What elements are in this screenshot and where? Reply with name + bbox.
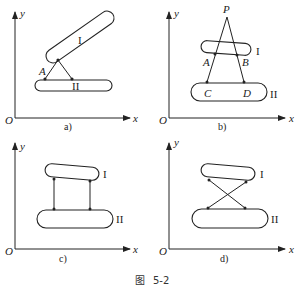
- body-II: [191, 83, 267, 101]
- body-II-label: II: [271, 213, 279, 225]
- point-P: P: [222, 3, 230, 15]
- panel-c: y x O I II c): [5, 140, 138, 265]
- x-axis-label: x: [288, 243, 294, 255]
- body-I: [201, 163, 256, 181]
- body-I: [201, 40, 252, 55]
- x-axis-label: x: [132, 243, 138, 255]
- figure-caption-prefix: 图: [135, 275, 145, 286]
- body-I-label: I: [260, 168, 264, 180]
- panel-label: a): [64, 121, 72, 133]
- origin-label: O: [5, 114, 13, 126]
- figure-5-2: y x O I II A a) y x O I II: [0, 0, 298, 288]
- point-A: A: [38, 65, 46, 77]
- panel-label: c): [59, 253, 67, 265]
- body-II-label: II: [116, 213, 124, 225]
- origin-label: O: [5, 245, 13, 257]
- point-C: C: [204, 87, 212, 99]
- origin-label: O: [159, 245, 167, 257]
- panel-label: b): [218, 121, 226, 133]
- panel-b: y x O I II P A B C D b): [159, 3, 294, 133]
- body-I-label: I: [256, 45, 260, 57]
- body-II-label: II: [72, 80, 80, 92]
- figure-caption-number: 5-2: [153, 275, 169, 286]
- x-axis-label: x: [288, 112, 294, 124]
- body-II: [192, 209, 268, 228]
- origin-label: O: [159, 114, 167, 126]
- panel-a: y x O I II A a): [5, 7, 138, 133]
- body-II: [37, 210, 113, 228]
- panel-label: d): [220, 253, 228, 265]
- y-axis-label: y: [173, 136, 179, 148]
- y-axis-label: y: [173, 7, 179, 19]
- body-II-label: II: [270, 88, 278, 100]
- point-A: A: [202, 56, 210, 68]
- body-I-label: I: [78, 34, 82, 46]
- panel-d: y x O I II d): [159, 136, 294, 265]
- y-axis-label: y: [19, 140, 25, 152]
- point-B: B: [242, 56, 249, 68]
- body-I-label: I: [103, 168, 107, 180]
- point-D: D: [242, 87, 251, 99]
- y-axis-label: y: [19, 7, 25, 19]
- x-axis-label: x: [132, 112, 138, 124]
